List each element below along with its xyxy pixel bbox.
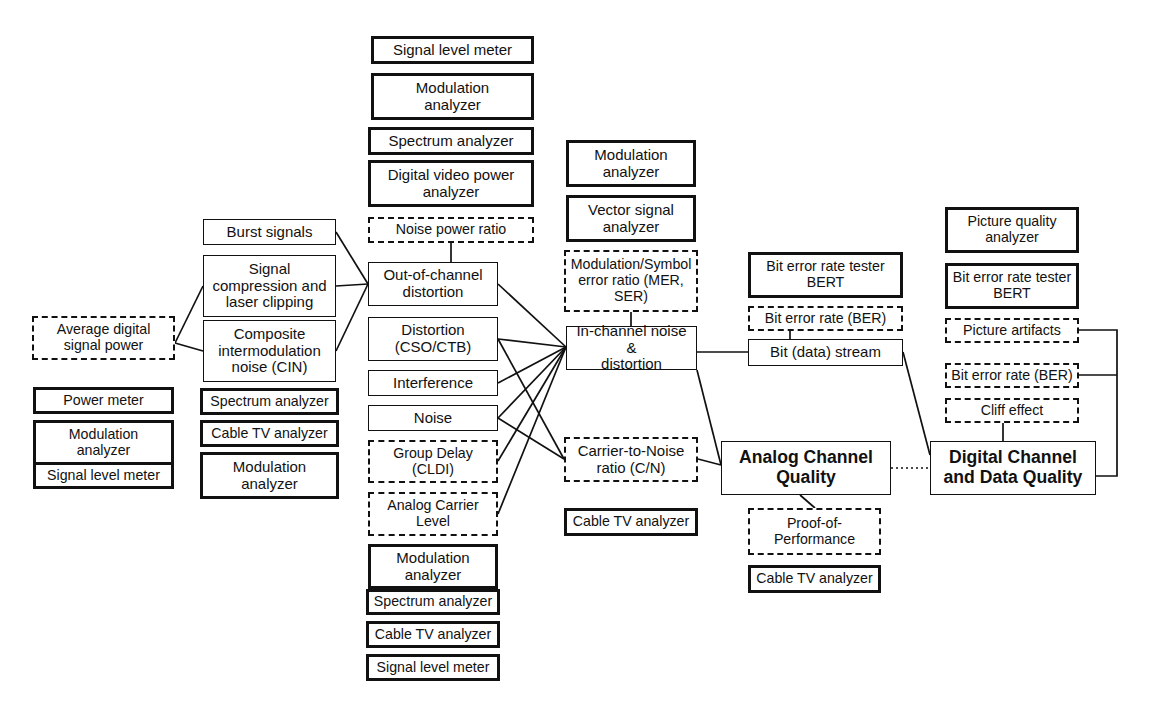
- node-modulation-analyzer[interactable]: Modulationanalyzer: [33, 420, 174, 466]
- node-label: Vector signalanalyzer: [588, 202, 674, 236]
- node-spectrum-analyzer[interactable]: Spectrum analyzer: [366, 589, 500, 615]
- node-group-delay-cldi[interactable]: Group Delay(CLDI): [368, 440, 498, 483]
- node-label: Digital Channeland Data Quality: [944, 448, 1083, 487]
- node-modulation-analyzer[interactable]: Modulationanalyzer: [566, 140, 696, 187]
- node-label: Compositeintermodulationnoise (CIN): [218, 326, 321, 376]
- node-label: Spectrum analyzer: [388, 133, 513, 150]
- node-label: Bit error rate testerBERT: [766, 259, 884, 291]
- edge-n22-to-n18: [175, 343, 203, 351]
- node-label: Noise: [414, 410, 452, 427]
- node-label: Modulationanalyzer: [233, 459, 306, 493]
- node-label: Spectrum analyzer: [374, 594, 492, 610]
- edge-n11-to-n29: [498, 347, 566, 514]
- node-label: Proof-of-Performance: [774, 516, 855, 548]
- edge-n09-to-n29: [498, 347, 566, 418]
- node-out-of-channel-distortion[interactable]: Out-of-channeldistortion: [368, 262, 498, 306]
- node-label: Picture artifacts: [963, 323, 1061, 339]
- node-label: Bit error rate (BER): [765, 311, 886, 327]
- node-cable-tv-analyzer[interactable]: Cable TV analyzer: [564, 508, 698, 536]
- edge-n30-to-n35: [698, 459, 721, 465]
- node-modulation-symbol-error-ratio-mer-ser[interactable]: Modulation/Symbolerror ratio (MER,SER): [564, 250, 698, 312]
- node-bit-error-rate-ber[interactable]: Bit error rate (BER): [945, 363, 1079, 388]
- node-label: Distortion(CSO/CTB): [395, 322, 472, 356]
- node-label: Modulationanalyzer: [594, 147, 667, 181]
- node-label: Digital video poweranalyzer: [388, 167, 515, 201]
- node-composite-intermodulation-noise-cin[interactable]: Compositeintermodulationnoise (CIN): [203, 320, 336, 382]
- edge-n07-to-n30: [498, 339, 564, 459]
- node-label: Bit error rate testerBERT: [953, 270, 1071, 302]
- node-label: Signal level meter: [393, 42, 512, 59]
- node-label: Bit (data) stream: [770, 344, 881, 361]
- edge-n17-to-n06: [336, 284, 368, 286]
- edge-n06-to-n29: [498, 284, 566, 347]
- node-label: Signalcompression andlaser clipping: [212, 261, 326, 311]
- node-label: Modulationanalyzer: [416, 80, 489, 114]
- node-label: Interference: [393, 375, 473, 392]
- node-cable-tv-analyzer[interactable]: Cable TV analyzer: [748, 565, 881, 593]
- node-signal-level-meter[interactable]: Signal level meter: [371, 36, 534, 64]
- node-noise-power-ratio[interactable]: Noise power ratio: [368, 217, 534, 243]
- node-label: Cable TV analyzer: [756, 571, 872, 587]
- node-digital-video-power-analyzer[interactable]: Digital video poweranalyzer: [368, 160, 534, 207]
- edge-n08-to-n29: [498, 347, 566, 383]
- node-label: Cable TV analyzer: [375, 627, 491, 643]
- node-modulation-analyzer[interactable]: Modulationanalyzer: [368, 544, 498, 589]
- node-picture-artifacts[interactable]: Picture artifacts: [945, 318, 1079, 343]
- node-carrier-to-noise-ratio-c-n[interactable]: Carrier-to-Noiseratio (C/N): [564, 437, 698, 482]
- node-analog-channel-quality[interactable]: Analog ChannelQuality: [721, 441, 891, 495]
- node-power-meter[interactable]: Power meter: [33, 387, 174, 414]
- edge-n18-to-n06: [336, 284, 368, 351]
- node-cable-tv-analyzer[interactable]: Cable TV analyzer: [366, 621, 500, 648]
- node-average-digital-signal-power[interactable]: Average digitalsignal power: [32, 316, 175, 360]
- node-interference[interactable]: Interference: [368, 370, 498, 396]
- node-modulation-analyzer[interactable]: Modulationanalyzer: [200, 452, 339, 499]
- edge-n10-to-n29: [498, 347, 566, 461]
- node-bit-data-stream[interactable]: Bit (data) stream: [748, 339, 903, 366]
- node-label: Signal level meter: [47, 468, 160, 484]
- node-modulation-analyzer[interactable]: Modulationanalyzer: [371, 73, 534, 120]
- node-cliff-effect[interactable]: Cliff effect: [945, 398, 1079, 423]
- node-cable-tv-analyzer[interactable]: Cable TV analyzer: [200, 420, 339, 447]
- node-label: Cable TV analyzer: [211, 426, 327, 442]
- node-digital-channel-and-data-quality[interactable]: Digital Channeland Data Quality: [930, 441, 1096, 495]
- edge-n34-to-n43: [903, 352, 930, 455]
- node-label: Noise power ratio: [396, 222, 506, 238]
- node-label: Spectrum analyzer: [210, 394, 328, 410]
- node-label: Modulationanalyzer: [69, 427, 138, 459]
- node-label: Power meter: [63, 393, 143, 409]
- node-burst-signals[interactable]: Burst signals: [203, 219, 336, 245]
- node-in-channel-noise-distortion[interactable]: In-channel noise &distortion: [566, 326, 697, 370]
- node-signal-compression-and-laser-clipping[interactable]: Signalcompression andlaser clipping: [203, 255, 336, 317]
- node-label: In-channel noise &distortion: [570, 323, 693, 373]
- node-bit-error-rate-tester-bert[interactable]: Bit error rate testerBERT: [748, 252, 903, 298]
- node-label: Modulation/Symbolerror ratio (MER,SER): [571, 257, 692, 305]
- node-picture-quality-analyzer[interactable]: Picture qualityanalyzer: [945, 207, 1079, 253]
- edge-n16-to-n06: [336, 232, 368, 284]
- node-spectrum-analyzer[interactable]: Spectrum analyzer: [200, 388, 339, 415]
- node-signal-level-meter[interactable]: Signal level meter: [366, 654, 500, 681]
- node-label: Modulationanalyzer: [396, 550, 469, 584]
- node-label: Cliff effect: [981, 403, 1044, 419]
- edge-n07-to-n29: [498, 339, 566, 347]
- node-label: Group Delay(CLDI): [393, 446, 473, 478]
- node-label: Average digitalsignal power: [57, 322, 151, 354]
- node-label: Out-of-channeldistortion: [383, 267, 482, 301]
- node-analog-carrier-level[interactable]: Analog CarrierLevel: [368, 492, 498, 536]
- node-signal-level-meter[interactable]: Signal level meter: [33, 462, 174, 489]
- node-bit-error-rate-ber[interactable]: Bit error rate (BER): [748, 306, 903, 331]
- edge-n22-to-n17: [175, 286, 203, 343]
- node-label: Carrier-to-Noiseratio (C/N): [578, 443, 685, 477]
- edge-n29-to-n35: [697, 370, 721, 465]
- node-proof-of-performance[interactable]: Proof-of-Performance: [748, 508, 881, 555]
- node-label: Cable TV analyzer: [573, 514, 689, 530]
- node-label: Burst signals: [227, 224, 313, 241]
- node-distortion-cso-ctb[interactable]: Distortion(CSO/CTB): [368, 317, 498, 361]
- node-vector-signal-analyzer[interactable]: Vector signalanalyzer: [566, 195, 696, 242]
- node-label: Analog ChannelQuality: [739, 448, 873, 487]
- diagram-canvas: Signal level meterModulationanalyzerSpec…: [0, 0, 1167, 714]
- node-noise[interactable]: Noise: [368, 405, 498, 431]
- node-spectrum-analyzer[interactable]: Spectrum analyzer: [368, 127, 534, 155]
- node-bit-error-rate-tester-bert[interactable]: Bit error rate testerBERT: [945, 263, 1079, 309]
- edge-n35-to-n36: [800, 495, 815, 508]
- node-label: Signal level meter: [377, 660, 490, 676]
